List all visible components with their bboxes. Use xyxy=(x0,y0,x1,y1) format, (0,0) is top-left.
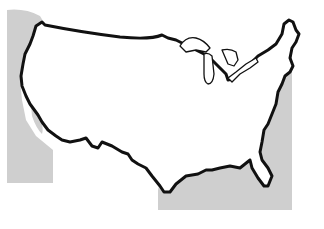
us-outline-map xyxy=(0,0,324,229)
lake-michigan xyxy=(204,53,214,84)
us-border-outline xyxy=(21,20,299,192)
lake-huron xyxy=(222,49,238,66)
lake-superior xyxy=(180,38,210,52)
